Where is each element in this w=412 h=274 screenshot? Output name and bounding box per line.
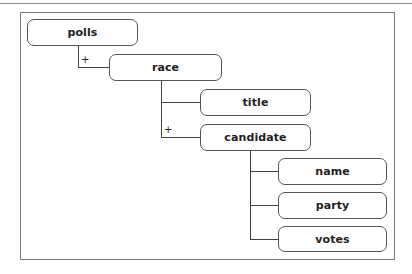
connector-race-title-horizontal: [161, 102, 200, 103]
node-title: title: [200, 89, 311, 116]
node-party-label: party: [316, 199, 350, 212]
connector-candidate-party-horizontal: [250, 205, 278, 206]
node-race: race: [109, 54, 222, 81]
node-party: party: [278, 192, 387, 219]
connector-candidate-name-horizontal: [250, 171, 278, 172]
multiplicity-race: +: [81, 55, 89, 65]
node-race-label: race: [152, 61, 179, 74]
node-votes: votes: [278, 226, 387, 252]
connector-polls-race-horizontal: [78, 67, 109, 68]
node-polls-label: polls: [67, 26, 97, 39]
connector-race-candidate-horizontal: [161, 137, 200, 138]
node-name-label: name: [315, 165, 350, 178]
node-votes-label: votes: [315, 233, 350, 246]
node-title-label: title: [242, 96, 268, 109]
node-candidate: candidate: [200, 124, 311, 151]
node-name: name: [278, 158, 387, 185]
node-polls: polls: [27, 19, 138, 46]
connector-polls-race-vertical: [78, 45, 79, 67]
top-rule: [0, 3, 412, 4]
node-candidate-label: candidate: [224, 131, 286, 144]
connector-candidate-votes-horizontal: [250, 239, 278, 240]
connector-race-children-vertical: [161, 80, 162, 137]
multiplicity-candidate: +: [164, 125, 172, 135]
connector-candidate-children-vertical: [250, 150, 251, 239]
